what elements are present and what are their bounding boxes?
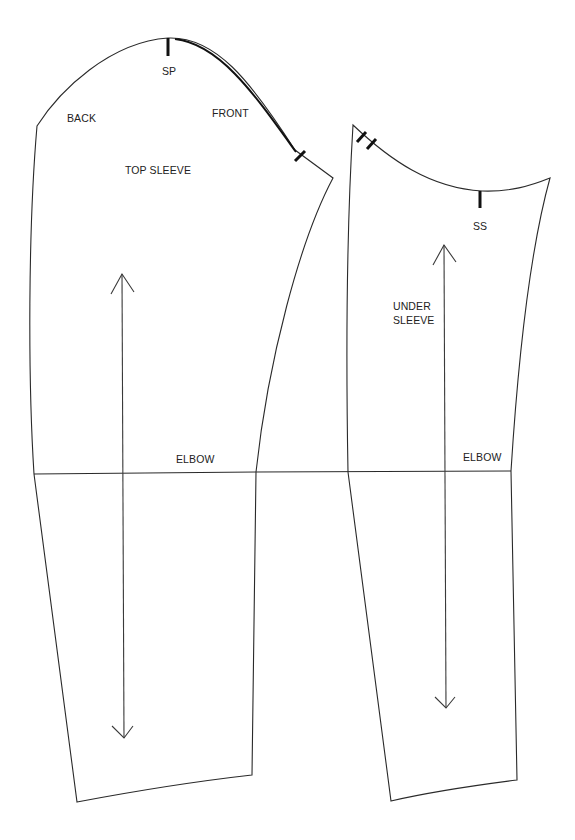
under-sleeve-piece: SS UNDER SLEEVE ELBOW [256, 125, 550, 801]
grainline-arrow-down-icon [435, 697, 455, 708]
under-sleeve-elbow-line [256, 471, 511, 472]
grainline-arrow-down-icon [112, 726, 133, 738]
top-sleeve-outline [30, 38, 333, 802]
pattern-canvas: SP BACK FRONT TOP SLEEVE ELBOW SS UNDER … [0, 0, 575, 840]
top-sleeve-piece: SP BACK FRONT TOP SLEEVE ELBOW [30, 38, 333, 802]
top-sleeve-front-cap [175, 39, 296, 152]
grainline-shaft [122, 274, 124, 738]
label-back: BACK [67, 112, 96, 124]
label-elbow-top: ELBOW [176, 453, 214, 465]
grainline-shaft [444, 245, 446, 708]
label-sp: SP [162, 65, 176, 77]
top-sleeve-elbow-line [34, 472, 256, 474]
label-top-sleeve: TOP SLEEVE [125, 164, 191, 176]
label-sleeve: SLEEVE [393, 314, 434, 326]
label-ss: SS [473, 220, 487, 232]
under-sleeve-grainline [433, 245, 456, 708]
under-sleeve-outline [347, 125, 550, 801]
label-under: UNDER [393, 300, 431, 312]
label-front: FRONT [212, 107, 249, 119]
top-sleeve-grainline [111, 274, 134, 738]
label-elbow-under: ELBOW [463, 451, 501, 463]
